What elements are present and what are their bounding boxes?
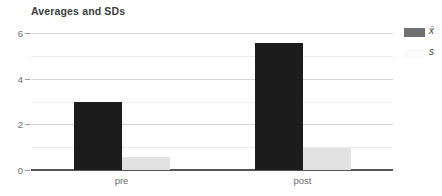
bar-pre-mean[interactable] (74, 102, 122, 171)
gridline (31, 33, 393, 34)
y-tick-mark (25, 33, 30, 34)
bar-post-sd[interactable] (303, 148, 351, 170)
chart-legend: x̄ s (404, 26, 442, 68)
legend-item-mean[interactable]: x̄ (404, 26, 442, 47)
legend-item-sd[interactable]: s (404, 47, 442, 68)
gridline-minor (31, 56, 393, 57)
y-tick-label: 6 (18, 28, 23, 39)
y-tick-mark (25, 124, 30, 125)
legend-swatch-sd (404, 49, 425, 58)
chart-title: Averages and SDs (31, 5, 125, 17)
x-tick-label-post: post (294, 175, 312, 186)
legend-swatch-mean (404, 28, 425, 37)
legend-label-sd: s (429, 46, 434, 57)
bar-chart: Averages and SDs 0246 x̄ s prepost (0, 0, 442, 196)
gridline (31, 79, 393, 80)
bar-pre-sd[interactable] (122, 157, 170, 170)
x-tick-label-pre: pre (115, 175, 129, 186)
y-tick-label: 0 (18, 165, 23, 176)
y-tick-mark (25, 79, 30, 80)
y-tick-label: 2 (18, 119, 23, 130)
bar-post-mean[interactable] (255, 43, 303, 170)
y-tick-mark (25, 170, 30, 171)
y-tick-label: 4 (18, 73, 23, 84)
legend-label-mean: x̄ (429, 25, 434, 36)
y-axis: 0246 (0, 33, 23, 170)
